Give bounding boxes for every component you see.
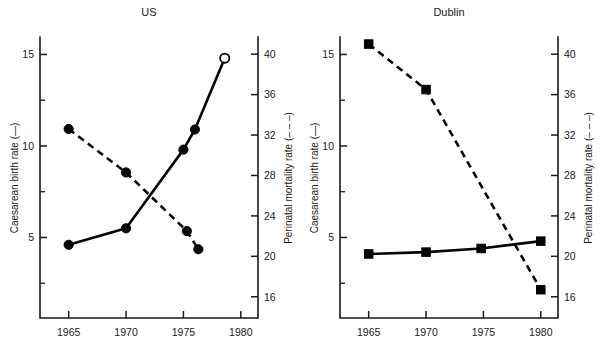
bottom-tick-label: 1970 bbox=[114, 326, 138, 338]
left-axis-title-group-us: Caesarean birth rate (—) bbox=[9, 123, 20, 234]
right-axis-title-us: Perinatal mortality rate (– – –) bbox=[283, 112, 294, 244]
right-tick-label: 28 bbox=[564, 169, 576, 181]
data-point-us-caesarean-2 bbox=[179, 145, 188, 154]
bottom-axis-us: 1965197019751980 bbox=[57, 311, 253, 338]
bottom-tick-label: 1980 bbox=[529, 326, 553, 338]
left-axis-dublin: 51015 bbox=[322, 48, 347, 283]
right-tick-label: 24 bbox=[564, 210, 576, 222]
bottom-tick-label: 1970 bbox=[414, 326, 438, 338]
left-axis-title-us: Caesarean birth rate (—) bbox=[9, 123, 20, 234]
right-tick-label: 16 bbox=[564, 291, 576, 303]
right-tick-label: 40 bbox=[264, 48, 276, 60]
right-tick-label: 36 bbox=[564, 88, 576, 100]
series-line-us-perinatal bbox=[69, 129, 199, 249]
right-tick-label: 16 bbox=[264, 291, 276, 303]
axis-frame-dublin bbox=[340, 37, 558, 318]
left-tick-label: 15 bbox=[322, 48, 334, 60]
right-tick-label: 40 bbox=[564, 48, 576, 60]
left-tick-label: 5 bbox=[28, 231, 34, 243]
panel-title-us: US bbox=[141, 6, 156, 18]
right-tick-label: 20 bbox=[564, 250, 576, 262]
bottom-tick-label: 1975 bbox=[172, 326, 196, 338]
series-line-dublin-caesarean bbox=[369, 241, 541, 254]
data-point-us-perinatal-1 bbox=[121, 168, 130, 177]
bottom-tick-label: 1965 bbox=[57, 326, 81, 338]
right-tick-label: 32 bbox=[264, 129, 276, 141]
right-axis-title-group-us: Perinatal mortality rate (– – –) bbox=[283, 112, 294, 244]
right-tick-label: 36 bbox=[264, 88, 276, 100]
data-point-dublin-caesarean-3 bbox=[537, 237, 546, 246]
bottom-axis-dublin: 1965197019751980 bbox=[357, 311, 553, 338]
series-line-us-caesarean bbox=[69, 58, 225, 245]
right-tick-label: 20 bbox=[264, 250, 276, 262]
right-tick-label: 24 bbox=[264, 210, 276, 222]
bottom-tick-label: 1975 bbox=[472, 326, 496, 338]
data-point-us-perinatal-3 bbox=[194, 245, 203, 254]
right-axis-dublin: 16202428323640 bbox=[551, 48, 576, 303]
data-point-us-caesarean-3 bbox=[190, 125, 199, 134]
data-point-us-perinatal-2 bbox=[182, 226, 191, 235]
left-tick-label: 15 bbox=[22, 48, 34, 60]
data-point-us-caesarean-4 bbox=[220, 54, 229, 63]
data-point-dublin-caesarean-0 bbox=[364, 250, 373, 258]
left-axis-title-group-dublin: Caesarean birth rate (—) bbox=[309, 123, 320, 234]
right-axis-us: 16202428323640 bbox=[251, 48, 276, 303]
data-point-dublin-caesarean-1 bbox=[422, 248, 431, 257]
data-point-us-perinatal-0 bbox=[64, 124, 73, 133]
right-tick-label: 32 bbox=[564, 129, 576, 141]
right-axis-title-dublin: Perinatal mortality rate (– – –) bbox=[583, 112, 594, 244]
bottom-tick-label: 1980 bbox=[229, 326, 253, 338]
right-tick-label: 28 bbox=[264, 169, 276, 181]
right-axis-title-group-dublin: Perinatal mortality rate (– – –) bbox=[583, 112, 594, 244]
data-point-us-caesarean-0 bbox=[64, 240, 73, 249]
data-point-dublin-perinatal-2 bbox=[537, 285, 546, 294]
data-point-dublin-perinatal-1 bbox=[422, 85, 431, 94]
left-tick-label: 10 bbox=[322, 140, 334, 152]
axis-frame-us bbox=[40, 37, 258, 318]
chart-panel-us: US51015162024283236401965197019751980Cae… bbox=[0, 0, 300, 352]
left-axis-us: 51015 bbox=[22, 48, 47, 283]
panel-title-dublin: Dublin bbox=[433, 6, 464, 18]
data-point-us-caesarean-1 bbox=[121, 224, 130, 233]
figure-canvas: US51015162024283236401965197019751980Cae… bbox=[0, 0, 600, 352]
data-point-dublin-perinatal-0 bbox=[364, 40, 373, 49]
left-tick-label: 10 bbox=[22, 140, 34, 152]
data-point-dublin-caesarean-2 bbox=[477, 244, 486, 253]
bottom-tick-label: 1965 bbox=[357, 326, 381, 338]
left-axis-title-dublin: Caesarean birth rate (—) bbox=[309, 123, 320, 234]
chart-panel-dublin: Dublin5101516202428323640196519701975198… bbox=[300, 0, 600, 352]
left-tick-label: 5 bbox=[328, 231, 334, 243]
